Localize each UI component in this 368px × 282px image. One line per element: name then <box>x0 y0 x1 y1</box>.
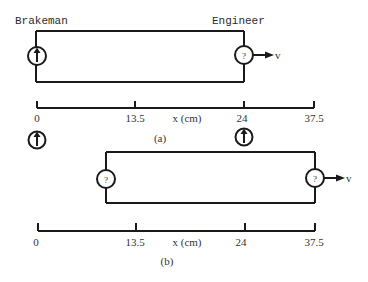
engineer-label: Engineer <box>212 15 265 27</box>
velocity-label-b: v <box>346 172 352 184</box>
brakeman-label: Brakeman <box>15 15 68 27</box>
train-a: ? v <box>28 31 281 82</box>
velocity-arrow-a-icon <box>253 52 274 59</box>
brakeman-clock-icon <box>28 47 46 65</box>
engineer-clock-question: ? <box>242 51 246 61</box>
axis-a: 0 13.5 x (cm) 24 37.5 <box>34 101 324 125</box>
ground-clock-0-icon <box>29 132 46 149</box>
axis-a-label-13_5: 13.5 <box>125 112 145 124</box>
axis-a-title: x (cm) <box>172 112 201 125</box>
panel-b: ? ? v 0 13.5 x (cm) 24 37.5 (b) <box>33 152 352 268</box>
train-b-left-clock-question: ? <box>104 175 108 185</box>
axis-b-label-13_5: 13.5 <box>125 236 145 248</box>
train-b-left-clock-icon: ? <box>97 170 115 188</box>
axis-b-label-0: 0 <box>33 236 39 248</box>
axis-b-title: x (cm) <box>172 236 201 249</box>
velocity-arrow-b-icon <box>324 175 345 182</box>
relativity-train-diagram: Brakeman Engineer ? v <box>0 0 368 282</box>
velocity-label-a: v <box>275 49 281 61</box>
axis-a-label-37_5: 37.5 <box>304 112 324 124</box>
ground-clock-24-icon <box>236 129 253 146</box>
axis-a-label-24: 24 <box>237 112 249 124</box>
caption-a: (a) <box>154 132 167 145</box>
axis-b-label-24: 24 <box>236 236 248 248</box>
train-b-right-clock-question: ? <box>313 174 317 184</box>
train-b-right-clock-icon: ? <box>306 169 324 187</box>
caption-b: (b) <box>161 255 174 268</box>
panel-a: Brakeman Engineer ? v <box>15 15 324 149</box>
train-b: ? ? v <box>97 152 352 203</box>
axis-b-label-37_5: 37.5 <box>304 236 324 248</box>
engineer-clock-icon: ? <box>235 46 253 64</box>
axis-a-label-0: 0 <box>34 112 40 124</box>
axis-b: 0 13.5 x (cm) 24 37.5 <box>33 223 324 249</box>
